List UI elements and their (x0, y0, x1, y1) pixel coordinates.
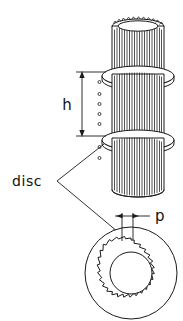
disc-callout: disc (12, 144, 120, 234)
disc-plan-view (85, 227, 177, 319)
arrow-right-icon (133, 214, 140, 219)
disc-label: disc (12, 173, 42, 189)
figure-root: h disc (0, 0, 183, 321)
arrow-left-icon (116, 214, 123, 219)
pitch-label: p (155, 207, 165, 225)
isometric-shaft-view (98, 17, 174, 197)
shaft-segment-bottom (112, 138, 164, 197)
height-label: h (62, 96, 72, 114)
technical-drawing-svg: h disc (0, 0, 183, 321)
